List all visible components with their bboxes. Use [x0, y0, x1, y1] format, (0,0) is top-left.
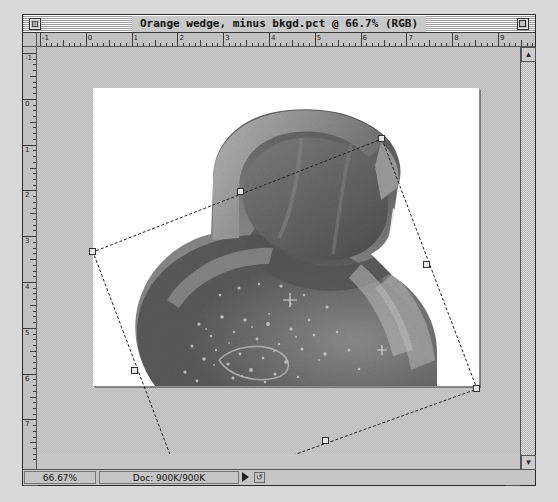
- ruler-tick-minor: [475, 40, 476, 46]
- ruler-tick-minor: [229, 43, 230, 46]
- ruler-tick-minor: [33, 208, 36, 209]
- ruler-tick-minor: [33, 276, 36, 277]
- ruler-tick-minor: [30, 351, 36, 352]
- ruler-tick-minor: [212, 43, 213, 46]
- vertical-ruler[interactable]: -101234567: [23, 47, 37, 485]
- ruler-label: 1: [134, 35, 138, 42]
- screenshot-root: Orange wedge, minus bkgd.pct @ 66.7% (RG…: [0, 0, 558, 502]
- ruler-tick-minor: [441, 43, 442, 46]
- handle-right-corner[interactable]: [473, 385, 480, 392]
- ruler-tick-minor: [33, 265, 36, 266]
- ruler-tick-minor: [33, 425, 36, 426]
- status-bar-filler: [269, 471, 534, 484]
- ruler-tick-minor: [33, 299, 36, 300]
- ruler-tick-minor: [321, 43, 322, 46]
- ruler-tick-minor: [33, 133, 36, 134]
- handle-right-mid[interactable]: [423, 261, 430, 268]
- ruler-tick-minor: [30, 76, 36, 77]
- ruler-label: 3: [25, 238, 29, 245]
- ruler-tick-minor: [80, 43, 81, 46]
- ruler-tick-minor: [252, 43, 253, 46]
- status-bar: 66.67% Doc: 900K/900K ↺: [23, 469, 535, 485]
- document-canvas-area[interactable]: [37, 47, 520, 454]
- handle-left-mid[interactable]: [131, 367, 138, 374]
- zoom-box-icon[interactable]: [517, 18, 529, 30]
- vertical-scroll-track[interactable]: [521, 47, 535, 470]
- ruler-tick-minor: [389, 43, 390, 46]
- ruler-tick-minor: [217, 43, 218, 46]
- handle-left-corner[interactable]: [89, 248, 96, 255]
- ruler-tick-minor: [166, 43, 167, 46]
- ruler-tick-minor: [33, 87, 36, 88]
- scroll-down-button[interactable]: ▼: [521, 455, 536, 470]
- ruler-tick-minor: [33, 162, 36, 163]
- ruler-tick-minor: [509, 43, 510, 46]
- ruler-tick-minor: [33, 139, 36, 140]
- ruler-tick-minor: [33, 70, 36, 71]
- popup-triangle-icon[interactable]: [242, 472, 249, 482]
- ruler-label: 3: [225, 35, 229, 42]
- ruler-label: 7: [408, 35, 412, 42]
- ruler-origin-corner[interactable]: [23, 33, 37, 47]
- handle-top-corner[interactable]: [378, 135, 385, 142]
- ruler-tick-minor: [33, 173, 36, 174]
- ruler-tick-minor: [235, 43, 236, 46]
- ruler-tick-minor: [33, 459, 36, 460]
- ruler-tick-minor: [33, 271, 36, 272]
- ruler-tick-minor: [33, 242, 36, 243]
- ruler-tick-minor: [504, 43, 505, 46]
- ruler-tick-minor: [200, 40, 201, 46]
- ruler-tick-minor: [33, 93, 36, 94]
- ruler-tick-minor: [33, 414, 36, 415]
- pointer-tool-icon[interactable]: ↺: [254, 472, 265, 483]
- ruler-tick-major: [452, 33, 453, 46]
- ruler-tick-minor: [424, 43, 425, 46]
- ruler-tick-minor: [355, 43, 356, 46]
- image-canvas[interactable]: [93, 88, 479, 386]
- ruler-tick-major: [361, 33, 362, 46]
- ruler-tick-minor: [33, 82, 36, 83]
- ruler-tick-minor: [521, 40, 522, 46]
- ruler-tick-minor: [487, 43, 488, 46]
- handle-top-mid[interactable]: [237, 188, 244, 195]
- ruler-tick-minor: [33, 179, 36, 180]
- ruler-tick-major: [40, 33, 41, 46]
- ruler-tick-minor: [33, 156, 36, 157]
- ruler-tick-minor: [292, 40, 293, 46]
- ruler-tick-minor: [418, 43, 419, 46]
- ruler-tick-major: [86, 33, 87, 46]
- ruler-tick-minor: [57, 43, 58, 46]
- ruler-tick-minor: [189, 43, 190, 46]
- document-size-field[interactable]: Doc: 900K/900K: [99, 471, 239, 484]
- ruler-tick-minor: [33, 225, 36, 226]
- ruler-tick-minor: [378, 43, 379, 46]
- ruler-tick-minor: [114, 43, 115, 46]
- ruler-tick-minor: [46, 43, 47, 46]
- ruler-tick-minor: [33, 454, 36, 455]
- close-box-icon[interactable]: [29, 18, 41, 30]
- ruler-tick-minor: [33, 448, 36, 449]
- ruler-tick-minor: [33, 150, 36, 151]
- ruler-tick-minor: [275, 43, 276, 46]
- vertical-scrollbar[interactable]: ▲ ▼: [520, 47, 535, 470]
- ruler-label: 2: [179, 35, 183, 42]
- ruler-tick-minor: [143, 43, 144, 46]
- ruler-tick-minor: [286, 43, 287, 46]
- handle-bottom-mid[interactable]: [322, 437, 329, 444]
- window-titlebar[interactable]: Orange wedge, minus bkgd.pct @ 66.7% (RG…: [23, 15, 535, 33]
- zoom-percentage-field[interactable]: 66.67%: [24, 471, 96, 484]
- scroll-up-button[interactable]: ▲: [521, 47, 536, 62]
- ruler-tick-minor: [30, 168, 36, 169]
- ruler-tick-minor: [366, 43, 367, 46]
- ruler-tick-minor: [33, 127, 36, 128]
- ruler-tick-minor: [33, 385, 36, 386]
- horizontal-ruler[interactable]: -10123456789: [37, 33, 535, 47]
- ruler-tick-minor: [240, 43, 241, 46]
- ruler-tick-minor: [464, 43, 465, 46]
- ruler-tick-major: [177, 33, 178, 46]
- ruler-tick-minor: [401, 43, 402, 46]
- ruler-tick-minor: [384, 40, 385, 46]
- ruler-tick-minor: [69, 43, 70, 46]
- ruler-tick-minor: [481, 43, 482, 46]
- ruler-tick-minor: [349, 43, 350, 46]
